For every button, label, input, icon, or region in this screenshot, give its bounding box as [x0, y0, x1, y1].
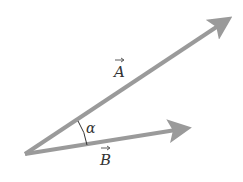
- label-a: A: [112, 58, 125, 81]
- svg-text:A: A: [112, 63, 125, 81]
- svg-text:B: B: [99, 151, 111, 169]
- vector-diagram: A α B: [0, 0, 243, 182]
- vector-a: [25, 22, 224, 154]
- label-alpha: α: [86, 120, 96, 136]
- label-b: B: [99, 146, 111, 169]
